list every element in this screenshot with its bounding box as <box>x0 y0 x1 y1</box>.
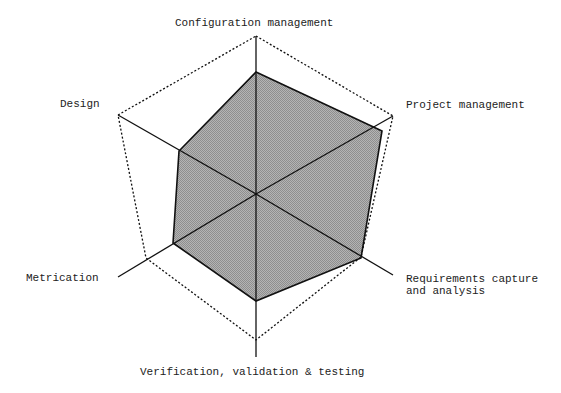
axis-label-metrication: Metrication <box>26 272 99 284</box>
radar-chart <box>0 0 561 393</box>
axis-label-project-management: Project management <box>406 99 525 111</box>
data-area-polygon <box>173 72 382 301</box>
axis-label-configuration-management: Configuration management <box>175 17 333 29</box>
axis-label-requirements-line2: and analysis <box>406 285 485 297</box>
axis-label-verification-validation-testing: Verification, validation & testing <box>140 366 364 378</box>
axis-label-design: Design <box>60 98 100 110</box>
axis-label-requirements-line1: Requirements capture <box>406 273 538 285</box>
